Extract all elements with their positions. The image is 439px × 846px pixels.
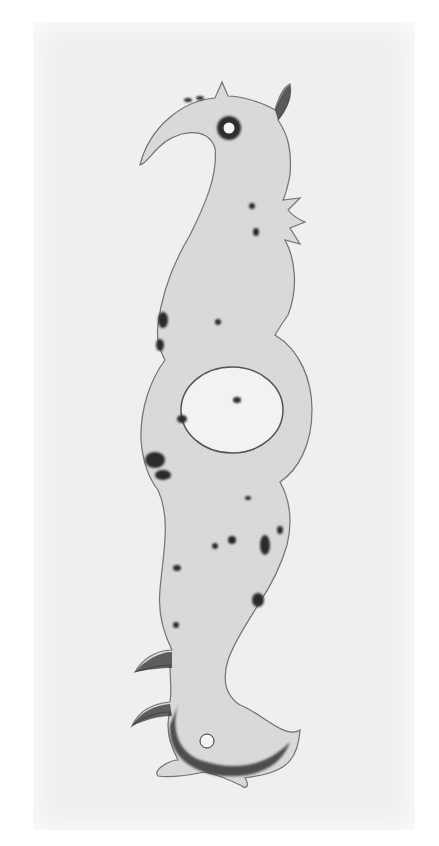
central-oval-opening [181,367,283,453]
top-nail-hole [224,123,235,134]
bottom-nail-hole [200,734,214,748]
metal-plate-figure [0,0,439,846]
photograph [33,22,415,830]
